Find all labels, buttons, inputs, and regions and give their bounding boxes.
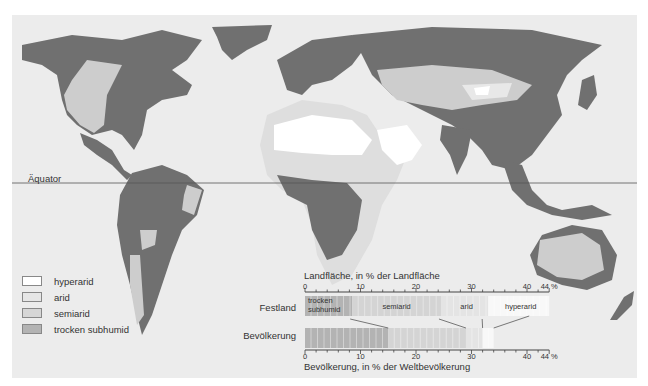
legend-item-arid: arid (22, 289, 129, 305)
legend-label: semiarid (54, 308, 90, 319)
japan (578, 75, 597, 110)
legend-label: arid (54, 292, 70, 303)
swatch-hyperarid (22, 276, 42, 286)
north-america (22, 30, 202, 150)
swatch-semiarid (22, 308, 42, 318)
legend-item-hyperarid: hyperarid (22, 273, 129, 289)
legend-label: hyperarid (54, 276, 94, 287)
map-legend: hyperarid arid semiarid trocken subhumid (22, 273, 129, 337)
southeast-asia (502, 160, 612, 220)
greenland (212, 25, 272, 60)
legend-label: trocken subhumid (54, 324, 129, 335)
swatch-arid (22, 292, 42, 302)
new-zealand (610, 291, 634, 320)
europe (277, 35, 367, 95)
swatch-trocken-subhumid (22, 324, 42, 334)
central-america (80, 133, 132, 180)
legend-item-trocken-subhumid: trocken subhumid (22, 321, 129, 337)
equator-label: Äquator (28, 173, 61, 184)
legend-item-semiarid: semiarid (22, 305, 129, 321)
india (440, 125, 472, 175)
